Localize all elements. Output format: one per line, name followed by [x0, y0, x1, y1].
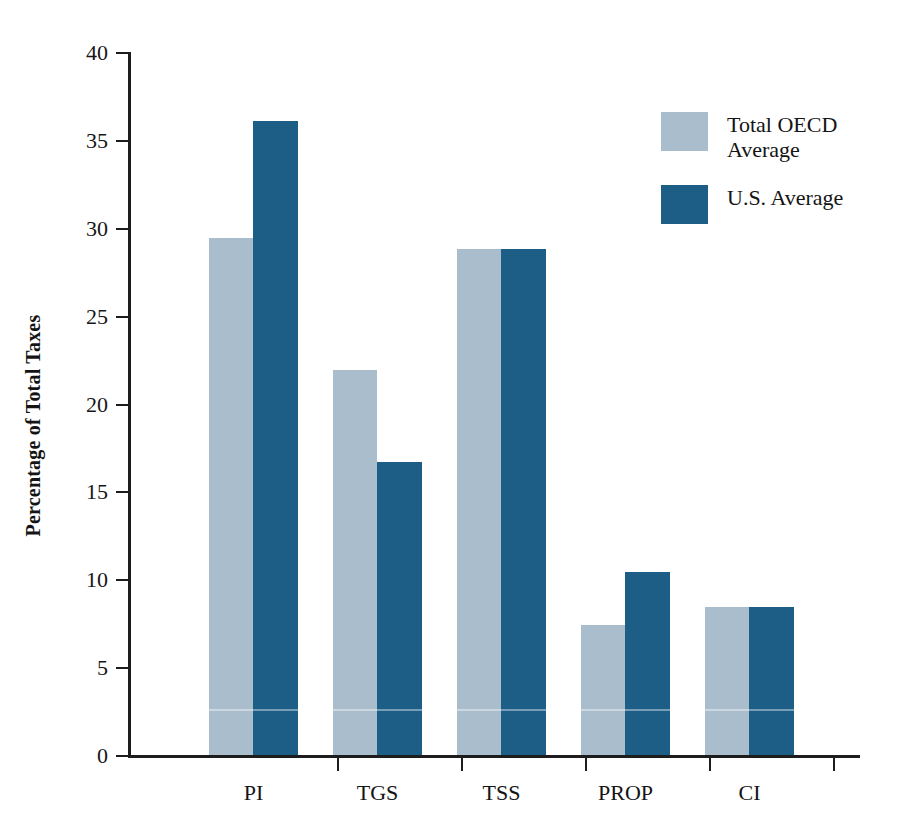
y-axis-tick-label: 40	[86, 40, 108, 66]
legend-swatch-icon-us-average	[661, 185, 708, 224]
y-axis-tick: 10	[116, 579, 128, 581]
x-axis-tick	[833, 757, 835, 771]
y-axis-tick: 25	[116, 316, 128, 318]
y-axis-line	[128, 52, 131, 758]
x-axis-tick	[461, 757, 463, 771]
y-axis-tick-label: 25	[86, 304, 108, 330]
y-axis-tick: 5	[116, 667, 128, 669]
y-axis-tick-label: 35	[86, 128, 108, 154]
y-axis-tick: 20	[116, 404, 128, 406]
bar-pi-total-oecd-average	[209, 238, 253, 755]
bar-ci-us-average	[749, 607, 794, 755]
y-axis-tick-label: 0	[97, 743, 108, 769]
legend-swatch-icon-total-oecd-average	[661, 112, 708, 151]
bar-tss-total-oecd-average	[457, 249, 501, 755]
y-axis-tick: 40	[116, 52, 128, 54]
x-axis-tick	[337, 757, 339, 771]
bar-chart: Percentage of Total Taxes 05101520253035…	[0, 0, 897, 837]
legend-item-us-average: U.S. Average	[661, 185, 891, 224]
y-axis-tick-label: 20	[86, 392, 108, 418]
x-axis-label-tgs: TGS	[357, 780, 399, 806]
y-axis-tick: 35	[116, 140, 128, 142]
x-axis-tick	[585, 757, 587, 771]
y-axis-tick-label: 15	[86, 479, 108, 505]
y-axis-tick: 30	[116, 228, 128, 230]
y-axis-tick: 15	[116, 491, 128, 493]
x-axis-label-ci: CI	[739, 780, 761, 806]
x-axis-label-prop: PROP	[598, 780, 653, 806]
y-axis-tick-label: 10	[86, 567, 108, 593]
bar-ci-total-oecd-average	[705, 607, 749, 755]
legend-label-us-average: U.S. Average	[727, 185, 843, 210]
y-axis-tick-label: 5	[97, 655, 108, 681]
x-axis-tick	[709, 757, 711, 771]
y-axis-title: Percentage of Total Taxes	[22, 276, 45, 576]
legend-item-total-oecd-average: Total OECD Average	[661, 112, 891, 162]
y-axis-tick-label: 30	[86, 216, 108, 242]
bar-prop-us-average	[625, 572, 670, 755]
legend-label-total-oecd-average: Total OECD Average	[727, 112, 837, 162]
bar-prop-total-oecd-average	[581, 625, 625, 755]
bar-tgs-us-average	[377, 462, 422, 756]
x-axis-label-tss: TSS	[483, 780, 521, 806]
bar-tgs-total-oecd-average	[333, 370, 377, 755]
bar-tss-us-average	[501, 249, 546, 755]
bar-pi-us-average	[253, 121, 298, 755]
y-axis-tick: 0	[116, 755, 128, 757]
x-axis-label-pi: PI	[244, 780, 264, 806]
chart-legend: Total OECD Average U.S. Average	[661, 112, 891, 247]
x-axis-line	[128, 755, 860, 758]
